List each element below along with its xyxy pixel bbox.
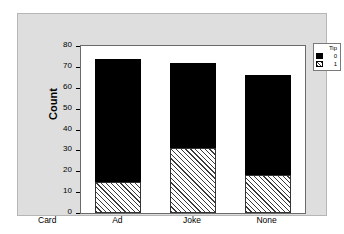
y-axis-tick-label: 40: [63, 124, 72, 133]
legend-entry: 1: [316, 60, 338, 68]
legend-entry: 0: [316, 52, 338, 60]
bar-segment-0[interactable]: [170, 63, 216, 149]
legend: Tip 01: [313, 43, 341, 71]
y-axis-tick-label: 0: [68, 207, 72, 216]
legend-label: 0: [334, 53, 338, 60]
x-axis-tick-labels: AdJokeNone: [80, 215, 306, 231]
y-axis-tick-label: 50: [63, 103, 72, 112]
x-axis-title: Card: [38, 215, 56, 225]
figure-root: Count 01020304050607080 Card AdJokeNone …: [0, 0, 344, 234]
plot-area: [81, 46, 305, 213]
y-axis-ticks: 01020304050607080: [18, 45, 80, 213]
legend-entries: 01: [316, 52, 338, 68]
legend-swatch-1: [316, 61, 323, 67]
bar-segment-0[interactable]: [245, 75, 291, 175]
x-axis-tick-label: Joke: [155, 215, 230, 225]
bar-stack[interactable]: [95, 59, 141, 213]
plot-frame: [80, 45, 306, 214]
y-axis-tick-label: 70: [63, 61, 72, 70]
x-axis-tick-label: None: [229, 215, 304, 225]
y-axis-tick-label: 20: [63, 165, 72, 174]
legend-swatch-0: [316, 53, 323, 59]
y-axis-tick-label: 30: [63, 144, 72, 153]
y-axis-tick-label: 80: [63, 40, 72, 49]
legend-label: 1: [334, 61, 338, 68]
bar-segment-1[interactable]: [245, 175, 291, 213]
chart-panel: Count 01020304050607080 Card AdJokeNone …: [17, 13, 327, 216]
bar-stack[interactable]: [245, 75, 291, 213]
y-axis-tick-label: 10: [63, 186, 72, 195]
bar-segment-0[interactable]: [95, 59, 141, 182]
legend-title: Tip: [316, 45, 338, 52]
bar-segment-1[interactable]: [95, 182, 141, 213]
bar-segment-1[interactable]: [170, 148, 216, 213]
bar-stack[interactable]: [170, 63, 216, 213]
y-axis-tick-label: 60: [63, 82, 72, 91]
x-axis-tick-label: Ad: [80, 215, 155, 225]
